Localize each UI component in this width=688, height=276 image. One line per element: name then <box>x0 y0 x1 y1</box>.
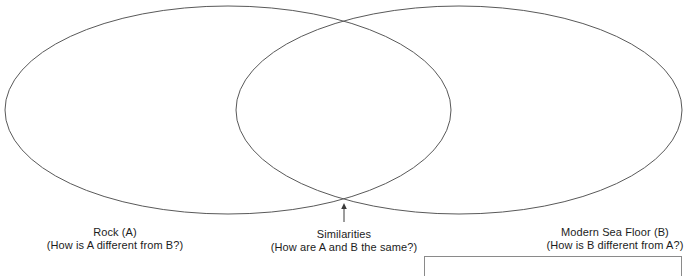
label-set-a-title: Rock (A) <box>0 226 230 239</box>
similarities-pointer-arrow <box>341 203 347 222</box>
ellipse-set-b <box>236 6 682 214</box>
label-set-b-question: (How is B different from A?) <box>525 239 688 252</box>
label-intersection-title: Similarities <box>254 228 434 241</box>
label-set-a-question: (How is A different from B?) <box>0 239 230 252</box>
label-intersection: Similarities (How are A and B the same?) <box>254 228 434 254</box>
label-set-b: Modern Sea Floor (B) (How is B different… <box>525 226 688 252</box>
label-intersection-question: (How are A and B the same?) <box>254 241 434 254</box>
bottom-panel-edge <box>424 256 682 276</box>
label-set-a: Rock (A) (How is A different from B?) <box>0 226 230 252</box>
ellipse-set-a <box>5 6 451 214</box>
label-set-b-title: Modern Sea Floor (B) <box>525 226 688 239</box>
